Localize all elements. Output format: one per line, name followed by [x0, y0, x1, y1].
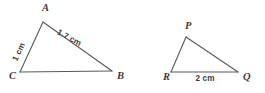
vertex-label-a: A: [41, 2, 49, 13]
geometry-canvas: ACB1 cm1.7 cmPRQ2 cm: [0, 0, 265, 93]
edge-pq: [186, 37, 238, 72]
vertex-label-p: P: [185, 20, 192, 31]
triangle-abc: ACB1 cm1.7 cm: [9, 2, 124, 81]
side-label-ab: 1.7 cm: [56, 28, 83, 48]
side-label-rq: 2 cm: [195, 74, 214, 83]
vertex-label-c: C: [9, 70, 17, 81]
vertex-label-r: R: [162, 71, 170, 82]
edge-cb: [20, 71, 112, 72]
edge-rp: [171, 37, 186, 72]
vertex-label-b: B: [116, 70, 124, 81]
vertex-label-q: Q: [243, 71, 251, 82]
side-label-ca: 1 cm: [11, 41, 27, 62]
geometry-figure: ACB1 cm1.7 cmPRQ2 cm: [0, 0, 265, 93]
triangle-pqr: PRQ2 cm: [162, 20, 251, 83]
